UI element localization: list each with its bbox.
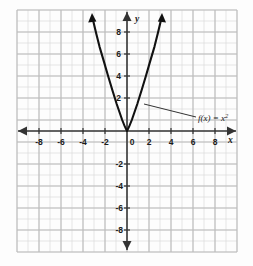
x-tick-label-2: 2 <box>147 137 152 147</box>
y-tick-label--6: -6 <box>115 203 123 213</box>
x-tick-label--6: -6 <box>57 137 65 147</box>
y-tick-label-2: 2 <box>116 93 121 103</box>
graph-screenshot: -8 -6 -4 -2 0 2 4 6 8 8 6 4 2 -2 -4 -6 -… <box>0 0 253 266</box>
coordinate-plane-graph: -8 -6 -4 -2 0 2 4 6 8 8 6 4 2 -2 -4 -6 -… <box>0 0 253 266</box>
y-tick-label--8: -8 <box>115 225 123 235</box>
y-tick-label-8: 8 <box>116 27 121 37</box>
x-tick-label-8: 8 <box>213 137 218 147</box>
y-tick-label-6: 6 <box>116 49 121 59</box>
y-axis-label: y <box>134 14 140 24</box>
x-tick-label-6: 6 <box>191 137 196 147</box>
y-tick-label--2: -2 <box>115 159 123 169</box>
curve-equation-text: f(x) = x <box>198 113 225 123</box>
x-tick-label-4: 4 <box>169 137 174 147</box>
y-tick-label-4: 4 <box>116 71 121 81</box>
x-axis-label: x <box>227 135 233 145</box>
x-tick-label--2: -2 <box>101 137 109 147</box>
y-tick-label--4: -4 <box>115 181 123 191</box>
x-tick-label--8: -8 <box>35 137 43 147</box>
x-tick-label--4: -4 <box>79 137 87 147</box>
origin-label: 0 <box>130 137 135 147</box>
curve-equation-label: f(x) = x2 <box>198 112 229 124</box>
